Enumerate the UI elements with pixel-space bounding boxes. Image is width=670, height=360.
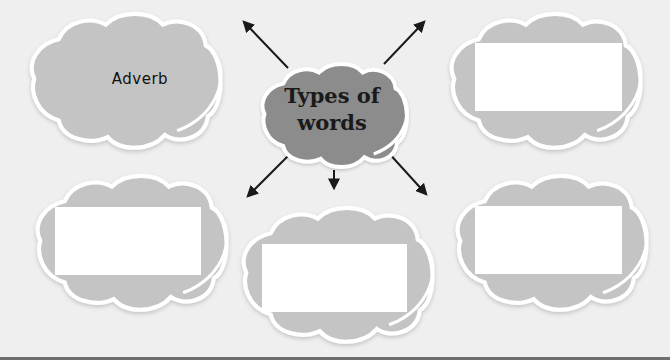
arrow-top-left: [244, 22, 288, 68]
answer-box-bottom-left[interactable]: [55, 207, 201, 275]
arrow-bottom-left: [248, 156, 288, 196]
arrow-top-right: [384, 22, 424, 64]
center-label-line1: Types of: [262, 82, 402, 109]
center-label-line2: words: [262, 109, 402, 136]
answer-box-bottom-right[interactable]: [475, 206, 622, 274]
node-label-top-left: Adverb: [60, 70, 220, 88]
center-label: Types of words: [262, 82, 402, 136]
answer-box-bottom-center[interactable]: [262, 244, 407, 312]
answer-box-top-right[interactable]: [475, 43, 622, 111]
